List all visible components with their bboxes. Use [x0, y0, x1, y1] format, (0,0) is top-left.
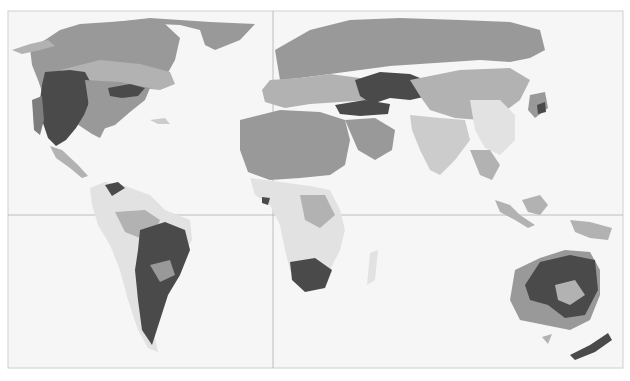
world-map	[0, 0, 630, 381]
